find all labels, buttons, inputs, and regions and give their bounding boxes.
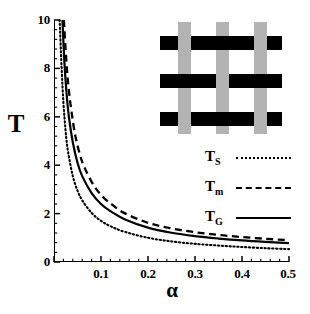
legend-label-T_m: Tm xyxy=(205,178,223,197)
legend-swatch-dotted xyxy=(236,157,291,159)
legend-swatch-dashed xyxy=(236,187,291,189)
x-axis-ticks xyxy=(54,256,289,262)
legend-swatch-solid xyxy=(236,217,291,219)
legend-item-T_G: TG xyxy=(205,212,291,222)
figure-panel: 10 8 6 4 2 0 0.1 0.2 0.3 0.4 0.5 T α TS xyxy=(0,0,310,314)
legend-label-T_S: TS xyxy=(205,148,221,167)
legend: TS Tm TG xyxy=(205,152,291,222)
legend-item-T_m: Tm xyxy=(205,182,291,192)
y-axis-ticks xyxy=(54,20,60,262)
legend-label-T_G: TG xyxy=(205,208,223,227)
legend-item-T_S: TS xyxy=(205,152,291,162)
woven-lattice-inset xyxy=(160,22,282,134)
